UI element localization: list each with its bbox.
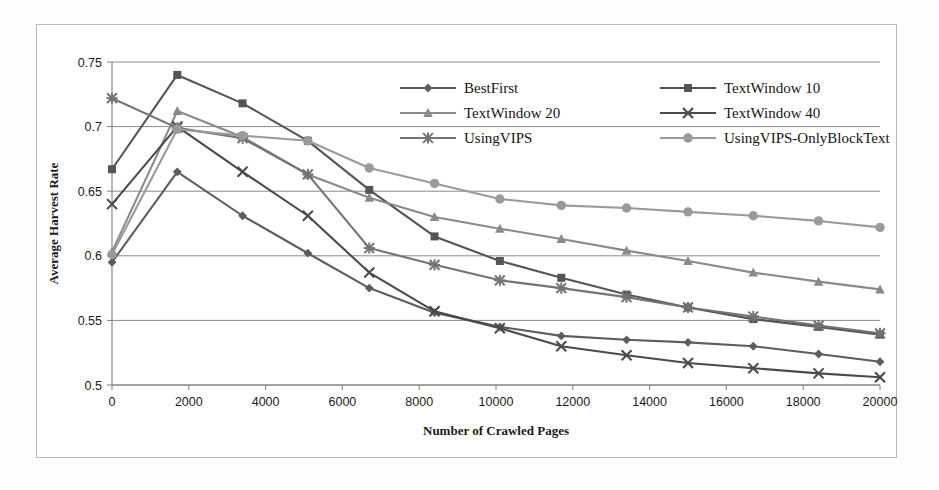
x-tick-label: 8000: [405, 395, 433, 409]
data-point-marker: [683, 207, 692, 216]
data-point-marker: [364, 268, 374, 278]
data-point-marker: [365, 163, 374, 172]
harvest-rate-line-chart: 0.50.550.60.650.70.750200040006000800010…: [0, 0, 939, 490]
data-point-marker: [814, 350, 823, 359]
data-point-marker: [238, 131, 247, 140]
x-tick-label: 4000: [252, 395, 280, 409]
legend-label: TextWindow 10: [724, 80, 820, 96]
data-point-marker: [684, 338, 693, 347]
data-point-marker: [749, 342, 758, 351]
x-tick-label: 18000: [786, 395, 821, 409]
data-point-marker: [621, 292, 632, 303]
data-point-marker: [172, 106, 182, 115]
data-point-marker: [557, 201, 566, 210]
legend-item-textwindow-10[interactable]: TextWindow 10: [660, 80, 820, 96]
x-tick-label: 16000: [709, 395, 744, 409]
series-line: [112, 127, 880, 378]
legend-marker: [684, 84, 692, 92]
data-point-marker: [238, 167, 248, 177]
data-point-marker: [431, 232, 439, 240]
legend-item-usingvips[interactable]: UsingVIPS: [400, 130, 532, 146]
data-point-marker: [557, 332, 566, 341]
x-tick-label: 12000: [555, 395, 590, 409]
data-point-marker: [814, 216, 823, 225]
legend-marker: [424, 84, 433, 93]
legend-item-textwindow-40[interactable]: TextWindow 40: [660, 105, 820, 121]
data-point-marker: [108, 165, 116, 173]
legend-marker: [422, 132, 433, 143]
data-point-marker: [874, 328, 885, 339]
data-point-marker: [749, 211, 758, 220]
legend-item-usingvips-onlyblocktext[interactable]: UsingVIPS-OnlyBlockText: [660, 130, 890, 146]
y-tick-label: 0.7: [85, 120, 102, 134]
data-point-marker: [107, 250, 116, 259]
data-point-marker: [622, 335, 631, 344]
data-point-marker: [622, 203, 631, 212]
x-tick-label: 20000: [863, 395, 898, 409]
data-point-marker: [557, 274, 565, 282]
legend-item-textwindow-20[interactable]: TextWindow 20: [400, 105, 560, 121]
series-line: [112, 129, 880, 254]
data-point-marker: [303, 136, 312, 145]
data-point-marker: [682, 302, 693, 313]
y-tick-label: 0.55: [78, 314, 102, 328]
y-tick-label: 0.5: [85, 379, 102, 393]
data-point-marker: [106, 93, 117, 104]
data-point-marker: [813, 320, 824, 331]
x-axis-title: Number of Crawled Pages: [423, 423, 569, 438]
data-point-marker: [876, 357, 885, 366]
data-point-marker: [173, 71, 181, 79]
legend-label: UsingVIPS-OnlyBlockText: [724, 130, 890, 146]
data-point-marker: [173, 124, 182, 133]
data-point-marker: [875, 223, 884, 232]
legend-label: BestFirst: [464, 80, 519, 96]
legend-label: TextWindow 40: [724, 105, 820, 121]
data-point-marker: [239, 99, 247, 107]
chart-container: 0.50.550.60.650.70.750200040006000800010…: [0, 0, 939, 490]
x-tick-label: 6000: [328, 395, 356, 409]
x-tick-label: 10000: [479, 395, 514, 409]
x-tick-label: 0: [109, 395, 116, 409]
x-tick-label: 14000: [632, 395, 667, 409]
data-point-marker: [429, 259, 440, 270]
data-point-marker: [556, 283, 567, 294]
legend-label: UsingVIPS: [464, 130, 532, 146]
legend-label: TextWindow 20: [464, 105, 560, 121]
legend-item-bestfirst[interactable]: BestFirst: [400, 80, 519, 96]
y-tick-label: 0.75: [78, 56, 102, 70]
y-tick-label: 0.65: [78, 185, 102, 199]
chart-legend: BestFirstTextWindow 10TextWindow 20TextW…: [400, 80, 890, 146]
data-point-marker: [496, 257, 504, 265]
y-tick-label: 0.6: [85, 249, 102, 263]
x-tick-label: 2000: [175, 395, 203, 409]
data-point-marker: [302, 169, 313, 180]
data-point-marker: [303, 211, 313, 221]
data-point-marker: [748, 311, 759, 322]
series-textwindow-40: [107, 122, 885, 383]
data-point-marker: [494, 275, 505, 286]
y-axis-title: Average Harvest Rate: [46, 162, 61, 284]
data-point-marker: [365, 284, 374, 293]
data-point-marker: [430, 179, 439, 188]
data-point-marker: [364, 242, 375, 253]
legend-marker: [683, 133, 692, 142]
data-point-marker: [495, 194, 504, 203]
